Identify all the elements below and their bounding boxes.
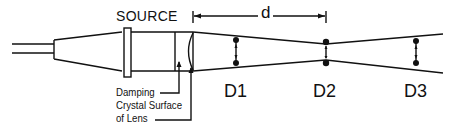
lens-leader: [155, 68, 191, 120]
d3-dot-top: [413, 38, 419, 44]
distance-label: d: [258, 4, 273, 21]
beam-lower-converge: [193, 60, 326, 71]
source-label: SOURCE: [116, 9, 178, 23]
d-arrowhead-left: [194, 14, 201, 19]
transducer-flange: [124, 28, 131, 77]
damping-label: Damping: [116, 87, 155, 98]
damping-arrowhead: [177, 61, 182, 67]
beam-lower-diverge: [326, 60, 443, 73]
position-label-d1: D1: [224, 82, 247, 100]
position-label-d2: D2: [313, 82, 336, 100]
transducer-beam-diagram: [0, 0, 454, 131]
beam-upper-diverge: [326, 34, 443, 44]
transducer-cone: [54, 32, 122, 71]
d1-dot-top: [233, 37, 239, 43]
d2-dot-bottom: [323, 60, 329, 66]
crystal-surface-label: Crystal Surface: [116, 100, 182, 111]
d-arrowhead-right: [318, 14, 325, 19]
d1-dot-bottom: [233, 60, 239, 66]
damping-leader: [160, 62, 179, 93]
transducer-body: [131, 32, 193, 71]
d2-dot-top: [323, 39, 329, 45]
of-lens-label: of Lens: [116, 113, 148, 124]
beam-upper-converge: [193, 32, 326, 44]
d3-dot-bottom: [413, 60, 419, 66]
position-label-d3: D3: [404, 82, 427, 100]
